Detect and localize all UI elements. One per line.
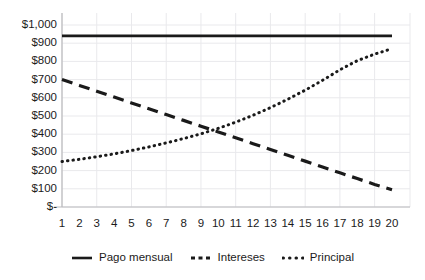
x-axis-tick-label: 6 — [146, 218, 152, 230]
dashed-line-marker — [190, 253, 212, 263]
x-axis-tick-label: 19 — [368, 218, 381, 230]
x-axis-tick-label: 7 — [163, 218, 169, 230]
amortization-chart: $1,000$900$800$700$600$500$400$300$200$1… — [0, 0, 425, 280]
x-axis-tick-label: 18 — [351, 218, 364, 230]
chart-legend: Pago mensualInteresesPrincipal — [0, 252, 425, 264]
x-axis-tick-label: 13 — [264, 218, 277, 230]
legend-item-2[interactable]: Intereses — [190, 252, 265, 264]
x-axis-tick-label: 4 — [111, 218, 117, 230]
x-axis-tick-label: 12 — [247, 218, 260, 230]
dotted-line-marker — [282, 253, 304, 263]
legend-item-3[interactable]: Principal — [282, 252, 354, 264]
x-axis-tick-label: 10 — [212, 218, 225, 230]
legend-label: Intereses — [218, 252, 265, 264]
x-axis-tick-label: 17 — [333, 218, 346, 230]
x-axis-tick-label: 5 — [128, 218, 134, 230]
legend-item-1[interactable]: Pago mensual — [71, 252, 173, 264]
x-axis-tick-labels: 1234567891011121314151617181920 — [0, 0, 425, 280]
x-axis-tick-label: 16 — [316, 218, 329, 230]
legend-label: Principal — [310, 252, 354, 264]
x-axis-tick-label: 20 — [386, 218, 399, 230]
x-axis-tick-label: 15 — [299, 218, 312, 230]
solid-line-marker — [71, 253, 93, 263]
x-axis-tick-label: 3 — [94, 218, 100, 230]
legend-label: Pago mensual — [99, 252, 173, 264]
x-axis-tick-label: 8 — [180, 218, 186, 230]
x-axis-tick-label: 9 — [198, 218, 204, 230]
x-axis-tick-label: 2 — [76, 218, 82, 230]
x-axis-tick-label: 14 — [281, 218, 294, 230]
x-axis-tick-label: 11 — [230, 218, 242, 230]
x-axis-tick-label: 1 — [59, 218, 65, 230]
